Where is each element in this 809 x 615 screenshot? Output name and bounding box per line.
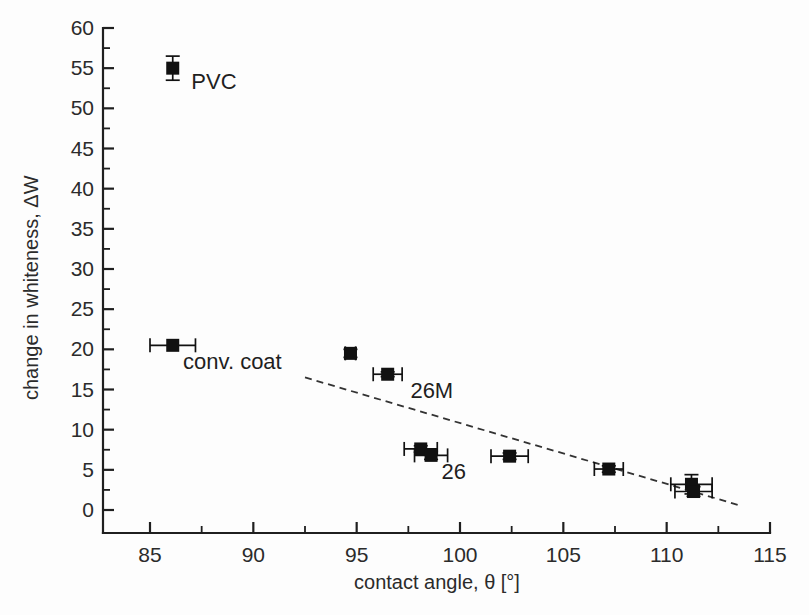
- y-tick-label: 30: [71, 257, 94, 280]
- y-tick-label: 10: [71, 418, 94, 441]
- annotations-group: PVCconv. coat26M26: [183, 69, 466, 484]
- series-annotation-ann-26m: 26M: [410, 378, 453, 403]
- data-point: [491, 449, 528, 463]
- point-marker: [425, 449, 438, 462]
- trend-line: [305, 377, 739, 505]
- point-marker: [166, 339, 179, 352]
- x-tick-label: 110: [650, 543, 683, 566]
- series-annotation-ann-conv-coat: conv. coat: [183, 349, 282, 374]
- x-axis-ticks: 859095100105110115: [138, 522, 786, 566]
- y-tick-label: 15: [71, 378, 94, 401]
- data-point: [343, 346, 357, 360]
- data-point: [373, 367, 402, 381]
- data-point: [166, 56, 180, 80]
- point-marker: [503, 450, 516, 463]
- data-points-group: [150, 56, 712, 498]
- data-point: [675, 485, 712, 499]
- x-tick-label: 100: [442, 543, 477, 566]
- y-axis-title: change in whiteness, ΔW: [20, 175, 42, 400]
- y-tick-label: 35: [71, 217, 94, 240]
- point-marker: [381, 368, 394, 381]
- plot-canvas: 051015202530354045505560 859095100105110…: [0, 0, 809, 615]
- point-marker: [166, 62, 179, 75]
- y-tick-label: 5: [82, 458, 94, 481]
- y-axis-ticks: 051015202530354045505560: [71, 16, 114, 521]
- scatter-chart-figure: 051015202530354045505560 859095100105110…: [0, 0, 809, 615]
- x-tick-label: 115: [753, 543, 786, 566]
- y-tick-label: 50: [71, 96, 94, 119]
- point-marker: [602, 463, 615, 476]
- x-axis-title: contact angle, θ [°]: [354, 571, 520, 593]
- y-tick-label: 20: [71, 337, 94, 360]
- x-tick-label: 85: [138, 543, 161, 566]
- x-tick-label: 95: [345, 543, 368, 566]
- y-tick-label: 0: [82, 498, 94, 521]
- y-tick-label: 45: [71, 137, 94, 160]
- trend-line-group: [305, 377, 739, 505]
- y-tick-label: 25: [71, 297, 94, 320]
- series-annotation-ann-pvc: PVC: [191, 69, 236, 94]
- y-tick-label: 40: [71, 177, 94, 200]
- x-tick-label: 90: [242, 543, 265, 566]
- y-tick-label: 55: [71, 56, 94, 79]
- point-marker: [687, 485, 700, 498]
- point-marker: [344, 347, 357, 360]
- x-tick-label: 105: [546, 543, 581, 566]
- y-tick-label: 60: [71, 16, 94, 39]
- series-annotation-ann-26: 26: [441, 459, 465, 484]
